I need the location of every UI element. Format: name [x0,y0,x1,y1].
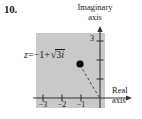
x-tick-label--3: −3 [36,100,50,109]
equation-imaginary-unit: i [61,49,64,60]
equation-radicand: 3 [56,49,61,60]
axes-graphic [0,0,142,119]
equation-real-part: −1 [34,49,45,60]
x-tick-label--2: −2 [55,100,69,109]
imaginary-axis-arrow [97,26,102,32]
real-axis-arrow [126,95,132,100]
equation-label: z=−1+√3i [24,49,64,61]
x-tick-label--1: −1 [74,100,88,109]
figure-container: 10. Imaginary axis Real axis −3 −2 −1 3 … [0,0,142,119]
y-tick-label-3: 3 [84,34,94,43]
square-root-symbol: √3 [50,49,62,61]
point-to-origin-dashed-line [80,65,99,97]
plotted-point-z [76,60,83,67]
radical-bar [55,49,65,50]
